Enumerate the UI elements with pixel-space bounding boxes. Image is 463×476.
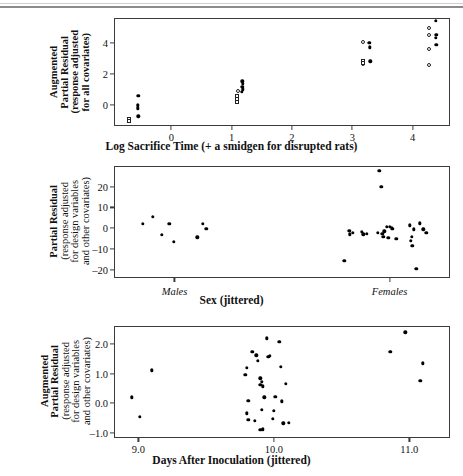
x-axis-tick-label: 10.0	[265, 444, 283, 455]
y-axis-label-line: for design variables	[70, 180, 81, 263]
data-point-open-square	[127, 119, 131, 123]
data-point-open-circle	[427, 33, 431, 37]
y-axis-tick-label: 1.0	[80, 368, 108, 379]
panel-days-after-inoculation: Augmented Partial Residual (response adj…	[0, 312, 463, 476]
y-axis-tick-label: 10	[80, 202, 108, 213]
y-axis-tick-mark	[110, 269, 114, 270]
y-axis-tick-label: 0	[80, 223, 108, 234]
x-axis-tick-label: 11.0	[400, 444, 418, 455]
y-axis-tick-mark	[110, 403, 114, 404]
y-axis-tick-label: 0.0	[80, 398, 108, 409]
x-axis-tick-mark	[412, 126, 413, 130]
y-axis-tick-mark	[110, 42, 114, 43]
y-axis-label-line: Partial Residual	[49, 185, 60, 258]
data-point-open-circle	[361, 40, 365, 44]
y-axis-tick-mark	[110, 104, 114, 105]
x-axis-title-panel3: Days After Inoculation (jittered)	[0, 454, 463, 466]
data-point-open-circle	[236, 89, 240, 93]
x-axis-group-label: Females	[372, 286, 408, 297]
y-axis-label-line: Augmented	[49, 46, 60, 98]
x-axis-group-label: Males	[162, 286, 188, 297]
x-axis-tick-mark	[138, 438, 139, 442]
x-axis-tick-mark	[291, 126, 292, 130]
x-axis-tick-mark	[174, 278, 175, 282]
y-axis-tick-mark	[110, 248, 114, 249]
y-axis-tick-mark	[110, 228, 114, 229]
x-axis-tick-mark	[389, 278, 390, 282]
y-axis-tick-mark	[110, 73, 114, 74]
x-axis-tick-label: 9.0	[132, 444, 145, 455]
y-axis-tick-mark	[110, 186, 114, 187]
y-axis-tick-label: –20	[80, 264, 108, 275]
y-axis-tick-mark	[110, 432, 114, 433]
data-point-open-circle	[427, 26, 431, 30]
top-rule	[0, 6, 463, 8]
x-axis-tick-mark	[352, 126, 353, 130]
x-axis-tick-label: 2	[289, 132, 294, 143]
y-axis-tick-label: 0	[80, 100, 108, 111]
y-axis-label-line: and other covariates)	[82, 337, 93, 425]
plot-area-panel1	[114, 18, 450, 126]
y-axis-tick-mark	[110, 207, 114, 208]
x-axis-tick-mark	[231, 126, 232, 130]
panel-sex-jittered: Partial Residual (response adjusted for …	[0, 152, 463, 310]
x-axis-tick-label: 3	[350, 132, 355, 143]
y-axis-tick-mark	[110, 373, 114, 374]
y-axis-tick-mark	[110, 344, 114, 345]
data-point-open-square	[361, 61, 365, 65]
x-axis-tick-label: 4	[410, 132, 415, 143]
data-point-open-circle	[427, 63, 431, 67]
plot-area-panel2	[114, 166, 450, 278]
y-axis-tick-label: 4	[80, 37, 108, 48]
x-axis-tick-mark	[171, 126, 172, 130]
y-axis-tick-label: –1.0	[80, 427, 108, 438]
y-axis-label-line: (response adjusted	[70, 30, 81, 114]
y-axis-tick-label: 20	[80, 181, 108, 192]
x-axis-tick-label: 1	[229, 132, 234, 143]
top-rule-thin	[0, 3, 463, 4]
x-axis-tick-label: 0	[169, 132, 174, 143]
y-axis-tick-label: –10	[80, 243, 108, 254]
x-axis-tick-mark	[409, 438, 410, 442]
y-axis-label-panel3: Augmented Partial Residual (response adj…	[20, 318, 112, 444]
x-axis-tick-mark	[273, 438, 274, 442]
data-point-open-circle	[427, 47, 431, 51]
data-point-open-square	[235, 100, 239, 104]
y-axis-tick-label: 2.0	[80, 339, 108, 350]
panel-log-sacrifice-time: Augmented Partial Residual (response adj…	[0, 12, 463, 150]
y-axis-tick-label: 2	[80, 68, 108, 79]
